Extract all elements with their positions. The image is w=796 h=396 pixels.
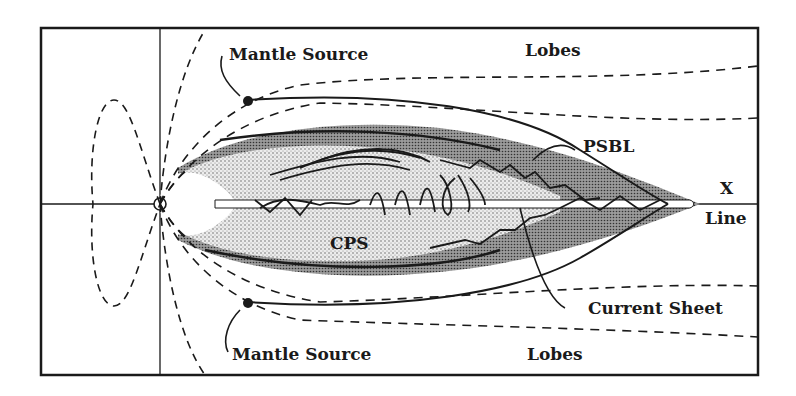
mantle-source-bottom-dot — [243, 298, 253, 308]
label-line: Line — [705, 210, 747, 227]
label-x: X — [720, 180, 733, 197]
label-psbl: PSBL — [583, 138, 634, 155]
label-current-sheet: Current Sheet — [588, 300, 723, 317]
label-mantle-source-bottom: Mantle Source — [232, 346, 371, 363]
label-mantle-source-top: Mantle Source — [229, 46, 368, 63]
label-lobes-bottom: Lobes — [527, 346, 583, 363]
mantle-source-top-dot — [243, 96, 253, 106]
label-cps: CPS — [330, 235, 369, 252]
magnetotail-diagram — [0, 0, 796, 396]
label-lobes-top: Lobes — [525, 42, 581, 59]
